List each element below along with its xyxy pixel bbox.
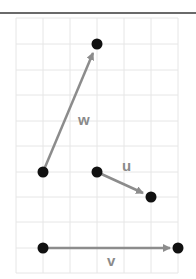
point-w-head [92,39,103,50]
point-v-tail [38,243,49,254]
label-u: u [122,157,131,174]
vector-diagram [0,0,196,279]
point-v-head [173,243,184,254]
point-u-head [146,192,157,203]
point-w-tail [38,167,49,178]
point-u-tail [92,167,103,178]
label-w: w [78,111,90,128]
grid [16,18,178,273]
label-v: v [107,252,115,269]
